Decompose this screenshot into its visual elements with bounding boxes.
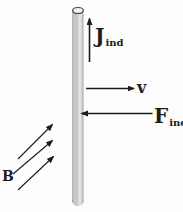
rod-body [73, 10, 84, 203]
b-field-arrow [18, 157, 54, 191]
b-field-label: B [2, 168, 14, 184]
velocity-label: v [137, 80, 146, 96]
b-field-arrows [13, 125, 54, 191]
conducting-rod [73, 8, 84, 207]
induced-current-label: Jind [95, 26, 124, 48]
induced-current-symbol: J [95, 24, 104, 48]
induced-force-label: Find [154, 106, 183, 128]
diagram-canvas: Jind v Find B [0, 0, 183, 212]
induced-force-subscript: ind [169, 117, 183, 128]
rod-top-cap [73, 8, 84, 14]
b-field-symbol: B [2, 168, 14, 184]
induced-current-subscript: ind [105, 37, 123, 48]
velocity-symbol: v [137, 78, 146, 97]
b-field-arrow [18, 125, 53, 160]
induced-force-symbol: F [154, 104, 168, 128]
b-field-arrow [13, 141, 53, 175]
